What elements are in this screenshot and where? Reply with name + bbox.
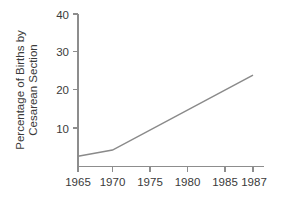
x-tick-label-1965: 1965 [65,176,91,188]
y-tick-label-10: 10 [56,123,69,135]
chart-page: 40 30 20 10 1965 1970 1975 1980 1985 198… [0,0,284,200]
line-chart: 40 30 20 10 1965 1970 1975 1980 1985 198… [0,0,284,200]
y-axis-title-line1: Percentage of Births by [14,30,26,150]
data-series-cesarean-line [78,75,253,156]
x-tick-label-1987: 1987 [241,176,267,188]
x-tick-label-1975: 1975 [137,176,163,188]
x-tick-label-1985: 1985 [212,176,238,188]
y-tick-label-40: 40 [56,9,69,21]
y-tick-label-20: 20 [56,84,69,96]
x-tick-label-1980: 1980 [175,176,201,188]
y-tick-label-30: 30 [56,46,69,58]
y-axis-title-line2: Cesarean Section [27,44,39,135]
x-tick-label-1970: 1970 [100,176,126,188]
